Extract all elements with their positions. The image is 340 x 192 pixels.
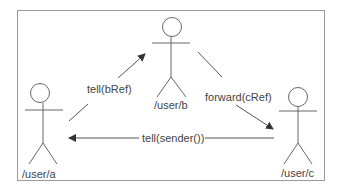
actor-user-a-icon: [25, 84, 63, 165]
actor-label-a: /user/a: [21, 168, 57, 180]
message-label-tell-bref: tell(bRef): [86, 83, 133, 95]
actor-user-b-icon: [152, 18, 190, 98]
message-label-tell-sender: tell(sender()): [141, 132, 205, 144]
diagram-canvas: [0, 0, 340, 192]
actor-label-b: /user/b: [153, 99, 189, 111]
actor-user-c-icon: [279, 88, 317, 165]
message-label-forward-cref: forward(cRef): [204, 91, 273, 103]
actor-label-c: /user/c: [280, 167, 315, 179]
